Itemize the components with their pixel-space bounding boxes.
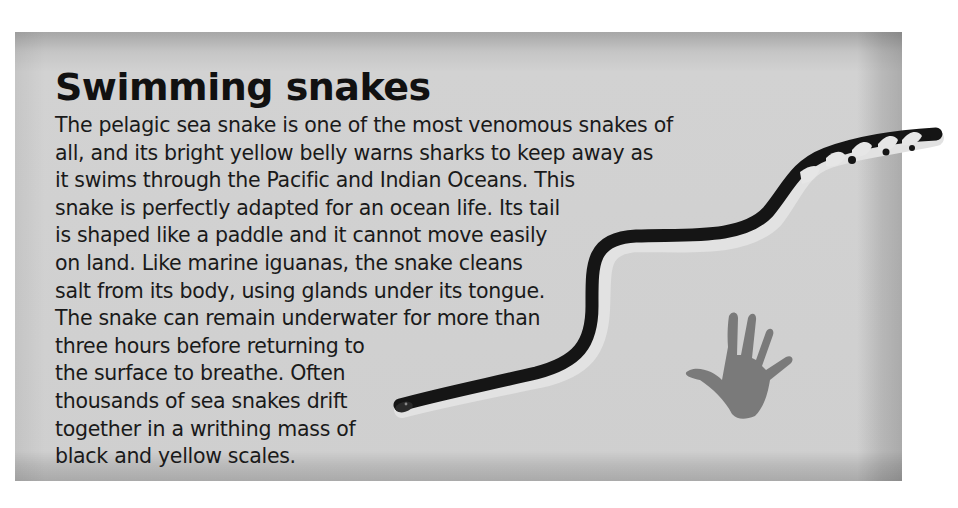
body-line: on land. Like marine iguanas, the snake … (55, 250, 673, 278)
body-line: black and yellow scales. (55, 443, 673, 471)
body-line: The snake can remain underwater for more… (55, 305, 673, 333)
article-body: The pelagic sea snake is one of the most… (55, 112, 673, 471)
body-line: three hours before returning to (55, 333, 673, 361)
article-title: Swimming snakes (55, 64, 431, 110)
body-line: the surface to breathe. Often (55, 360, 673, 388)
body-line: all, and its bright yellow belly warns s… (55, 140, 673, 168)
body-line: is shaped like a paddle and it cannot mo… (55, 222, 673, 250)
body-line: it swims through the Pacific and Indian … (55, 167, 673, 195)
body-line: The pelagic sea snake is one of the most… (55, 112, 673, 140)
body-line: together in a writhing mass of (55, 416, 673, 444)
body-line: thousands of sea snakes drift (55, 388, 673, 416)
body-line: salt from its body, using glands under i… (55, 278, 673, 306)
body-line: snake is perfectly adapted for an ocean … (55, 195, 673, 223)
